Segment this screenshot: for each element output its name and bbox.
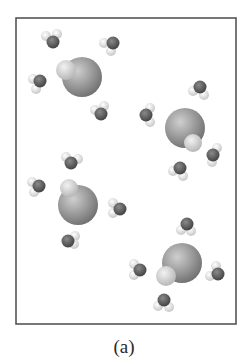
oxygen-atom bbox=[158, 294, 171, 307]
container-frame bbox=[16, 18, 236, 324]
ion-pair-1 bbox=[56, 57, 102, 97]
water-molecule bbox=[90, 101, 109, 121]
oxygen-atom bbox=[33, 180, 46, 193]
ion-pair-4 bbox=[156, 243, 202, 286]
figure-caption: (a) bbox=[0, 336, 248, 358]
molecular-diagram bbox=[0, 0, 248, 364]
oxygen-atom bbox=[65, 157, 78, 170]
water-molecule bbox=[27, 177, 46, 197]
oxygen-atom bbox=[114, 203, 127, 216]
water-molecule bbox=[41, 29, 62, 49]
water-molecule bbox=[207, 143, 223, 167]
water-molecule bbox=[129, 259, 147, 280]
oxygen-atom bbox=[62, 235, 75, 248]
water-molecule bbox=[108, 198, 127, 218]
water-molecule bbox=[99, 37, 120, 57]
oxygen-atom bbox=[194, 81, 207, 94]
oxygen-atom bbox=[107, 37, 120, 50]
oxygen-atom bbox=[140, 109, 153, 122]
water-molecule bbox=[140, 103, 156, 127]
small-ion-sphere bbox=[156, 266, 176, 286]
water-molecule bbox=[205, 261, 225, 281]
ion-pair-2 bbox=[165, 108, 205, 152]
water-molecule bbox=[61, 152, 83, 170]
oxygen-atom bbox=[181, 218, 194, 231]
ion-pair-3 bbox=[58, 179, 98, 225]
water-molecule bbox=[168, 162, 188, 182]
oxygen-atom bbox=[207, 149, 220, 162]
oxygen-atom bbox=[174, 162, 187, 175]
small-ion-sphere bbox=[60, 179, 78, 197]
water-molecule bbox=[62, 231, 81, 249]
oxygen-atom bbox=[34, 75, 47, 88]
water-molecule bbox=[153, 294, 174, 313]
oxygen-atom bbox=[95, 108, 108, 121]
water-molecule bbox=[28, 74, 47, 94]
oxygen-atom bbox=[212, 268, 225, 281]
oxygen-atom bbox=[47, 36, 60, 49]
oxygen-atom bbox=[134, 264, 147, 277]
small-ion-sphere bbox=[184, 134, 202, 152]
water-molecule bbox=[188, 81, 209, 101]
water-molecule bbox=[176, 218, 196, 237]
small-ion-sphere bbox=[56, 60, 76, 80]
